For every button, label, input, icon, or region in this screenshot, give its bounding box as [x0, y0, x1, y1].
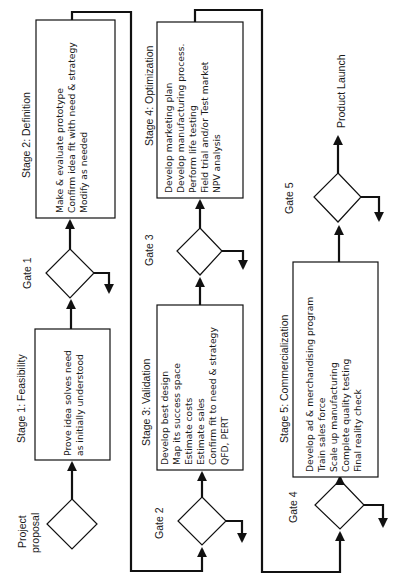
stage2-line-2: Confirm idea fit with need & strategy	[66, 42, 77, 213]
stage5-line-4: Complete quality testing	[340, 359, 351, 472]
stage4-title: Stage 4: Optimization	[143, 45, 155, 146]
stage4-line-4: Field trial and/or Test market	[199, 61, 210, 193]
gate1-diamond	[46, 249, 94, 298]
stage5-title: Stage 5: Commercialization	[278, 314, 290, 443]
gate4-kill-arrow	[364, 505, 383, 526]
gate3-label: Gate 3	[143, 234, 155, 266]
stage5-line-2: Train sales force	[316, 397, 327, 473]
stage3-line-1: Develop best design	[159, 371, 170, 465]
gate3-kill-arrow	[222, 251, 243, 268]
stage3-line-2: Map its success space	[171, 363, 182, 465]
stage2-line-3: Modify as needed	[78, 132, 89, 213]
stage5-line-1: Develop ad & merchandising program	[304, 297, 315, 472]
stage4-line-1: Develop marketing plan	[163, 83, 174, 193]
stage4-line-2: Develop manufacturing process.	[175, 44, 186, 193]
stage1-line-1: Prove idea solves need	[62, 350, 73, 456]
stage1-title: Stage 1: Feasibility	[15, 354, 27, 443]
project-proposal-label-line1: Project	[16, 515, 28, 548]
gate5-label: Gate 5	[283, 182, 295, 214]
stage4-line-5: NPV analysis	[211, 134, 222, 193]
stage1-line-2: as initially understood	[74, 354, 85, 456]
project-proposal-diamond	[47, 499, 97, 549]
stage5-line-3: Scale up manufacturing	[328, 362, 339, 472]
stage2-title: Stage 2: Definition	[20, 92, 32, 178]
gate3-diamond	[177, 228, 222, 275]
stage3-line-4: Estimate sales	[195, 398, 206, 465]
gate5-kill-arrow	[361, 197, 379, 220]
gate5-diamond	[314, 173, 361, 222]
product-launch-label: Product Launch	[335, 54, 347, 128]
gate4-label: Gate 4	[287, 491, 299, 523]
gate1-label: Gate 1	[21, 257, 33, 289]
stage3-title: Stage 3: Validation	[140, 358, 152, 446]
stage5-line-5: Final reality check	[352, 388, 363, 472]
gate2-kill-arrow	[226, 521, 242, 541]
stage3-line-5: Confirm fit to need & strategy	[207, 327, 218, 465]
stage3-line-6: QFD, PERT	[219, 417, 230, 465]
project-proposal-label-line2: proposal	[29, 513, 41, 553]
stage2-line-1: Make & evaluate prototype	[54, 88, 65, 213]
gate2-label: Gate 2	[153, 507, 165, 539]
stage3-line-3: Estimate costs	[183, 397, 194, 465]
gate4-diamond	[315, 480, 364, 529]
stage4-line-3: Perform life testing	[187, 105, 198, 193]
gate1-kill-arrow	[94, 273, 109, 292]
stage-gate-diagram: Project proposal Stage 1: Feasibility Pr…	[0, 0, 393, 576]
gate2-diamond	[178, 497, 226, 545]
